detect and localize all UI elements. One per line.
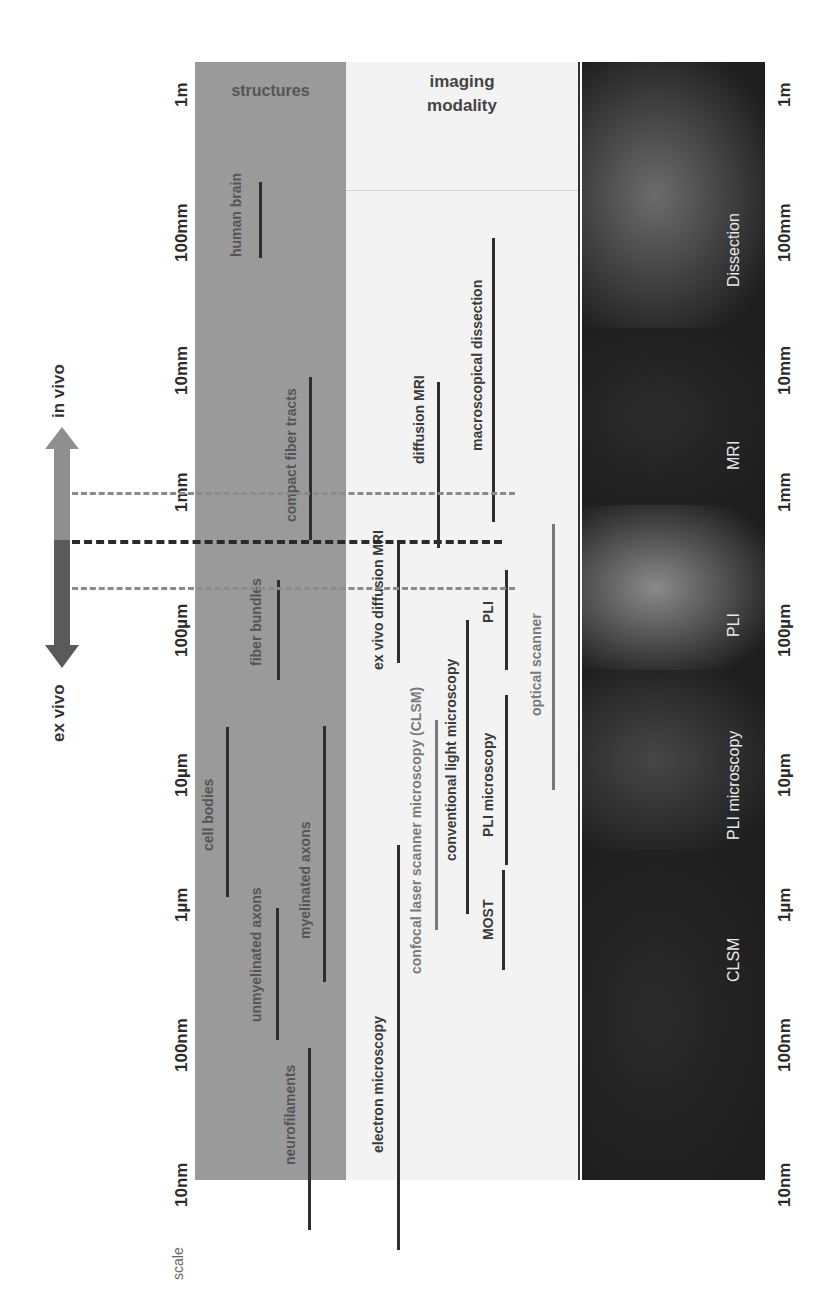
structure-label: compact fiber tracts bbox=[283, 388, 299, 522]
example-image-label: Dissection bbox=[725, 213, 743, 287]
example-image-pli bbox=[582, 505, 765, 670]
structure-label: neurofilaments bbox=[282, 1065, 298, 1165]
modality-range-bar bbox=[505, 695, 508, 865]
scale-tick-label: 10mm bbox=[172, 345, 192, 394]
modality-label: conventional light microscopy bbox=[443, 659, 459, 861]
scale-tick-label: 1µm bbox=[172, 888, 192, 922]
scale-tick-label: 1mm bbox=[775, 472, 795, 512]
modality-label: PLI bbox=[480, 601, 496, 623]
modality-range-bar bbox=[435, 720, 438, 930]
threshold-dashed-line bbox=[72, 540, 502, 544]
structure-range-bar bbox=[323, 726, 326, 982]
structure-range-bar bbox=[277, 580, 280, 680]
scale-tick-label: 10nm bbox=[172, 1163, 192, 1207]
scale-tick-label: 1m bbox=[775, 83, 795, 108]
structure-range-bar bbox=[259, 182, 262, 258]
modality-label: confocal laser scanner microscopy (CLSM) bbox=[408, 686, 424, 973]
example-images-panel: DissectionMRIPLIPLI microscopyCLSM bbox=[582, 62, 765, 1180]
structure-label: human brain bbox=[228, 173, 244, 257]
example-image-label: MRI bbox=[725, 440, 743, 469]
example-image-label: CLSM bbox=[725, 938, 743, 982]
structure-label: myelinated axons bbox=[297, 821, 313, 939]
in-vivo-ex-vivo-arrow-icon bbox=[42, 425, 82, 670]
structure-label: cell bodies bbox=[200, 779, 216, 851]
structure-label: unmyelinated axons bbox=[248, 888, 264, 1023]
threshold-dashed-line bbox=[72, 587, 515, 590]
scale-tick-label: 10µm bbox=[172, 753, 192, 797]
imaging-header-line1: imaging bbox=[346, 70, 578, 94]
example-image-clsm bbox=[582, 850, 765, 1180]
scale-tick-label: 100nm bbox=[775, 1018, 795, 1072]
structure-range-bar bbox=[308, 1048, 311, 1230]
imaging-modality-header: imaging modality bbox=[346, 70, 578, 118]
modality-range-bar bbox=[502, 870, 505, 970]
example-image-label: PLI microscopy bbox=[725, 730, 743, 839]
modality-range-bar bbox=[505, 570, 508, 670]
scale-tick-label: 100µm bbox=[172, 603, 192, 656]
scale-tick-label: 100mm bbox=[172, 204, 192, 263]
modality-label: ex vivo diffusion MRI bbox=[370, 530, 386, 670]
scale-tick-label: 10µm bbox=[775, 753, 795, 797]
scale-label: scale bbox=[170, 1247, 186, 1280]
imaging-header-divider bbox=[346, 190, 578, 191]
structures-header: structures bbox=[195, 82, 346, 100]
ex-vivo-label: ex vivo bbox=[49, 684, 69, 742]
structure-range-bar bbox=[226, 727, 229, 897]
example-image-dissection bbox=[582, 62, 765, 328]
scale-tick-label: 1µm bbox=[775, 888, 795, 922]
scale-tick-label: 1m bbox=[172, 83, 192, 108]
scale-tick-label: 100mm bbox=[775, 204, 795, 263]
modality-label: MOST bbox=[480, 900, 496, 940]
example-image-label: PLI bbox=[725, 613, 743, 637]
modality-label: macroscopical dissection bbox=[469, 279, 485, 450]
modality-range-bar bbox=[437, 382, 440, 548]
modality-label: electron microscopy bbox=[370, 1017, 386, 1154]
example-image-mri bbox=[582, 328, 765, 505]
structure-range-bar bbox=[309, 377, 312, 540]
scale-tick-label: 10mm bbox=[775, 345, 795, 394]
structures-panel bbox=[195, 62, 346, 1180]
scale-tick-label: 100nm bbox=[172, 1018, 192, 1072]
in-vivo-label: in vivo bbox=[49, 364, 69, 418]
modality-label: diffusion MRI bbox=[411, 376, 427, 465]
scale-tick-label: 100µm bbox=[775, 603, 795, 656]
threshold-dashed-line bbox=[72, 492, 515, 495]
modality-range-bar bbox=[397, 540, 400, 663]
modality-range-bar bbox=[552, 524, 555, 790]
modality-range-bar bbox=[466, 620, 469, 914]
modality-range-bar bbox=[492, 238, 495, 522]
modality-range-bar bbox=[397, 845, 400, 1250]
scale-tick-label: 10nm bbox=[775, 1163, 795, 1207]
modality-label: optical scanner bbox=[528, 614, 544, 717]
structure-range-bar bbox=[276, 908, 279, 1040]
modality-label: PLI microscopy bbox=[480, 733, 496, 837]
structure-label: fiber bundles bbox=[248, 578, 264, 666]
imaging-header-line2: modality bbox=[346, 94, 578, 118]
